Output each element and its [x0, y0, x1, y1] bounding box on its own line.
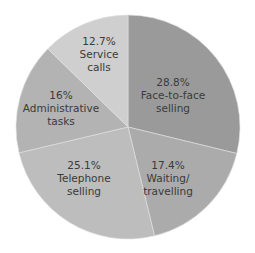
slice-name: selling [57, 185, 110, 198]
slice-name: tasks [23, 115, 99, 128]
slice-pct: 17.4% [143, 159, 193, 172]
slice-name: Telephone [57, 172, 110, 185]
pie-chart: 28.8% Face-to-face selling 17.4% Waiting… [0, 0, 255, 253]
slice-label-service: 12.7% Service calls [80, 35, 119, 74]
slice-name: selling [141, 102, 205, 115]
slice-name: Waiting/ [143, 172, 193, 185]
slice-pct: 12.7% [80, 35, 119, 48]
slice-label-face-to-face: 28.8% Face-to-face selling [141, 76, 205, 115]
slice-label-administrative: 16% Administrative tasks [23, 89, 99, 128]
slice-pct: 28.8% [141, 76, 205, 89]
slice-pct: 25.1% [57, 159, 110, 172]
slice-name: Service [80, 48, 119, 61]
slice-name: Face-to-face [141, 89, 205, 102]
slice-name: Administrative [23, 102, 99, 115]
slice-label-telephone: 25.1% Telephone selling [57, 159, 110, 198]
slice-name: travelling [143, 185, 193, 198]
slice-label-waiting: 17.4% Waiting/ travelling [143, 159, 193, 198]
slice-pct: 16% [23, 89, 99, 102]
slice-name: calls [80, 61, 119, 74]
